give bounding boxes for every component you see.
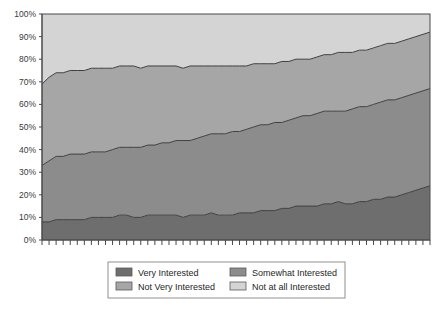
stacked-area-chart: 0%10%20%30%40%50%60%70%80%90%100% Very I… [0, 0, 444, 309]
y-axis-tick-label: 50% [19, 122, 36, 132]
legend: Very InterestedSomewhat InterestedNot Ve… [108, 262, 345, 298]
legend-swatch [230, 282, 246, 290]
plot-areas [42, 14, 430, 240]
y-axis-tick-label: 90% [19, 32, 36, 42]
y-axis-tick-label: 60% [19, 99, 36, 109]
legend-swatch [116, 282, 132, 290]
y-axis-tick-label: 10% [19, 212, 36, 222]
y-axis-tick-label: 70% [19, 77, 36, 87]
legend-label: Not Very Interested [138, 282, 215, 292]
legend-label: Not at all Interested [252, 282, 330, 292]
y-axis-tick-label: 40% [19, 145, 36, 155]
y-axis-tick-label: 30% [19, 167, 36, 177]
y-axis: 0%10%20%30%40%50%60%70%80%90%100% [14, 9, 42, 245]
y-axis-tick-label: 0% [24, 235, 37, 245]
x-axis [42, 240, 430, 245]
y-axis-tick-label: 20% [19, 190, 36, 200]
y-axis-tick-label: 100% [14, 9, 36, 19]
chart-canvas: 0%10%20%30%40%50%60%70%80%90%100% Very I… [0, 0, 444, 309]
legend-swatch [230, 268, 246, 276]
legend-label: Very Interested [138, 268, 199, 278]
legend-label: Somewhat Interested [252, 268, 337, 278]
legend-swatch [116, 268, 132, 276]
y-axis-tick-label: 80% [19, 54, 36, 64]
